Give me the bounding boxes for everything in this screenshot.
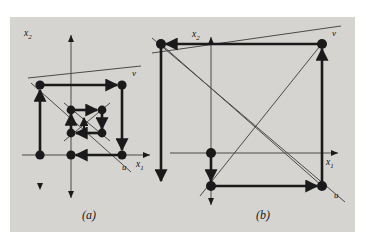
panel-a-u-label: u xyxy=(122,162,127,172)
node-a-inner-top-left xyxy=(67,106,76,115)
panel-b-x2-axis-label: x2 xyxy=(192,29,200,42)
node-a-top-left xyxy=(35,80,44,89)
node-a-axis-right xyxy=(117,150,126,159)
caption-a: (a) xyxy=(82,208,96,223)
node-b-bottom-right xyxy=(317,181,327,191)
panel-a-x1-axis-label: x1 xyxy=(136,159,144,172)
node-a-origin xyxy=(66,150,75,159)
node-a-inner-bottom-right xyxy=(98,129,107,138)
nodes-layer xyxy=(0,0,368,247)
caption-b: (b) xyxy=(256,208,270,223)
panel-b-u-label: u xyxy=(334,190,339,200)
panel-a-v-label: v xyxy=(132,68,136,78)
node-b-axis-left xyxy=(206,148,216,158)
node-b-top-left xyxy=(156,39,166,49)
node-b-top-right xyxy=(317,39,327,49)
panel-a-x2-axis-label: x2 xyxy=(24,28,32,41)
panel-b-v-label: v xyxy=(332,28,336,38)
figure-container: x2 x1 v u x2 x1 v u (a) (b) xyxy=(0,0,368,247)
node-b-bottom-left xyxy=(206,181,216,191)
node-a-inner-bottom-left xyxy=(67,129,76,138)
node-a-axis-left xyxy=(35,150,44,159)
node-a-inner-top-right xyxy=(98,106,107,115)
node-a-top-right xyxy=(117,80,126,89)
panel-b-x1-axis-label: x1 xyxy=(326,157,334,170)
